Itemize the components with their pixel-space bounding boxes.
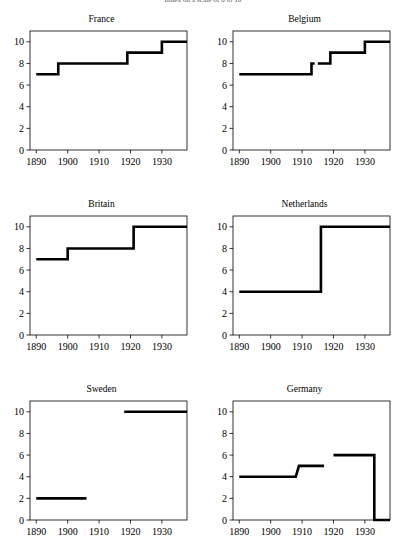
svg-text:1890: 1890 bbox=[26, 156, 46, 167]
svg-text:1930: 1930 bbox=[152, 526, 172, 537]
svg-text:4: 4 bbox=[222, 286, 227, 297]
svg-text:0: 0 bbox=[222, 515, 227, 526]
svg-text:1900: 1900 bbox=[58, 156, 78, 167]
plot-netherlands: 024681018901900191019201930 bbox=[203, 195, 406, 368]
svg-text:1910: 1910 bbox=[89, 526, 109, 537]
svg-text:1930: 1930 bbox=[355, 341, 375, 352]
svg-text:4: 4 bbox=[19, 101, 24, 112]
svg-text:4: 4 bbox=[222, 101, 227, 112]
svg-text:0: 0 bbox=[19, 145, 24, 156]
svg-text:1920: 1920 bbox=[120, 341, 140, 352]
svg-text:1920: 1920 bbox=[120, 526, 140, 537]
panel-britain: Britain 024681018901900191019201930 bbox=[0, 195, 203, 368]
svg-text:1900: 1900 bbox=[261, 156, 281, 167]
svg-text:10: 10 bbox=[217, 36, 227, 47]
svg-text:6: 6 bbox=[19, 265, 24, 276]
plot-britain: 024681018901900191019201930 bbox=[0, 195, 203, 368]
svg-text:10: 10 bbox=[217, 221, 227, 232]
svg-text:4: 4 bbox=[19, 286, 24, 297]
svg-text:8: 8 bbox=[19, 243, 24, 254]
svg-text:1900: 1900 bbox=[261, 341, 281, 352]
svg-text:2: 2 bbox=[222, 493, 227, 504]
figure-overall-title: Index on a scale of 0 to 10 bbox=[0, 0, 406, 3]
svg-text:8: 8 bbox=[19, 428, 24, 439]
step-chart-figure: Index on a scale of 0 to 10 France 02468… bbox=[0, 0, 406, 553]
svg-text:10: 10 bbox=[14, 36, 24, 47]
svg-text:2: 2 bbox=[19, 123, 24, 134]
svg-text:8: 8 bbox=[222, 58, 227, 69]
svg-text:0: 0 bbox=[19, 330, 24, 341]
svg-text:1890: 1890 bbox=[229, 341, 249, 352]
panel-france: France 024681018901900191019201930 bbox=[0, 10, 203, 183]
svg-text:1920: 1920 bbox=[323, 526, 343, 537]
svg-text:1910: 1910 bbox=[292, 156, 312, 167]
svg-text:1930: 1930 bbox=[152, 156, 172, 167]
svg-text:1910: 1910 bbox=[292, 341, 312, 352]
svg-text:2: 2 bbox=[222, 123, 227, 134]
svg-text:1930: 1930 bbox=[355, 526, 375, 537]
svg-text:6: 6 bbox=[222, 80, 227, 91]
svg-text:6: 6 bbox=[19, 450, 24, 461]
panel-netherlands: Netherlands 024681018901900191019201930 bbox=[203, 195, 406, 368]
svg-text:1910: 1910 bbox=[292, 526, 312, 537]
svg-text:2: 2 bbox=[19, 308, 24, 319]
svg-text:10: 10 bbox=[217, 406, 227, 417]
svg-text:1910: 1910 bbox=[89, 341, 109, 352]
svg-text:6: 6 bbox=[222, 450, 227, 461]
svg-text:1920: 1920 bbox=[323, 341, 343, 352]
svg-text:0: 0 bbox=[222, 145, 227, 156]
svg-text:1900: 1900 bbox=[58, 341, 78, 352]
svg-text:1930: 1930 bbox=[152, 341, 172, 352]
svg-text:1890: 1890 bbox=[26, 341, 46, 352]
svg-text:10: 10 bbox=[14, 221, 24, 232]
svg-text:1910: 1910 bbox=[89, 156, 109, 167]
svg-text:8: 8 bbox=[19, 58, 24, 69]
svg-text:0: 0 bbox=[222, 330, 227, 341]
plot-germany: 024681018901900191019201930 bbox=[203, 380, 406, 553]
svg-text:1890: 1890 bbox=[229, 526, 249, 537]
panel-germany: Germany 024681018901900191019201930 bbox=[203, 380, 406, 553]
panel-sweden: Sweden 024681018901900191019201930 bbox=[0, 380, 203, 553]
svg-text:1920: 1920 bbox=[323, 156, 343, 167]
svg-text:4: 4 bbox=[222, 471, 227, 482]
svg-text:1900: 1900 bbox=[58, 526, 78, 537]
svg-text:1930: 1930 bbox=[355, 156, 375, 167]
svg-text:6: 6 bbox=[222, 265, 227, 276]
svg-text:1900: 1900 bbox=[261, 526, 281, 537]
svg-text:1890: 1890 bbox=[26, 526, 46, 537]
svg-text:1890: 1890 bbox=[229, 156, 249, 167]
plot-france: 024681018901900191019201930 bbox=[0, 10, 203, 183]
svg-text:6: 6 bbox=[19, 80, 24, 91]
svg-text:8: 8 bbox=[222, 428, 227, 439]
svg-text:2: 2 bbox=[19, 493, 24, 504]
plot-belgium: 024681018901900191019201930 bbox=[203, 10, 406, 183]
svg-text:4: 4 bbox=[19, 471, 24, 482]
svg-text:0: 0 bbox=[19, 515, 24, 526]
plot-sweden: 024681018901900191019201930 bbox=[0, 380, 203, 553]
svg-text:1920: 1920 bbox=[120, 156, 140, 167]
panel-belgium: Belgium 024681018901900191019201930 bbox=[203, 10, 406, 183]
svg-text:8: 8 bbox=[222, 243, 227, 254]
svg-text:10: 10 bbox=[14, 406, 24, 417]
svg-text:2: 2 bbox=[222, 308, 227, 319]
